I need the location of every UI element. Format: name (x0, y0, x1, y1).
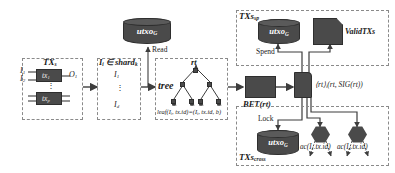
shard-item-first: I1 (114, 70, 119, 79)
edge-label-spend: Spend (256, 47, 275, 56)
valid-txs-label: ValidTXs (345, 27, 375, 36)
tree-node-root (193, 68, 198, 73)
utxo-store-global-top: utxoG (123, 18, 171, 44)
shard-vertical-dots: ⋮ (116, 83, 124, 92)
tree-leaf-1 (171, 99, 176, 104)
tree-node-mid-left (180, 82, 185, 87)
diagram-canvas: TXs I1 I2 tx1 O1 ⋮ txp Ii ∈ shardk I1 ⋮ … (0, 0, 395, 173)
tx-input-2-label: I2 (20, 74, 25, 83)
signed-root-label: ⟨rt⟩i(rt, SIG(rt)) (315, 80, 363, 89)
utxo-store-global-cross: utxoG (257, 130, 299, 155)
shard-item-last: Id (114, 100, 119, 109)
edge-label-read: Read (152, 45, 167, 54)
account-node-right-label: ac(Id.tx.id) (337, 143, 368, 151)
tree-leaf-3 (198, 99, 203, 104)
txs-cross-group-label: TXscross (239, 152, 266, 162)
tx-op-top-label: tx1 (42, 71, 50, 80)
bft-consensus-box (245, 76, 276, 98)
txs-spend-group-label: TXssp (239, 11, 259, 21)
signed-root-box (294, 72, 312, 98)
tree-root-label: rt (191, 57, 197, 67)
shard-header-label: Ii ∈ shardk (99, 57, 138, 67)
tree-leaf-4 (216, 99, 221, 104)
tx-vertical-dots: ⋮ (47, 81, 55, 90)
tx-output-label: O1 (69, 70, 77, 79)
tx-op-bottom-label: txp (42, 94, 50, 103)
tree-label: tree (158, 80, 174, 91)
utxo-store-global-spend: utxoG (258, 19, 300, 44)
tx-op-bottom-box: txp (36, 92, 62, 105)
tx-group-label: TXs (43, 57, 57, 67)
tree-leaf-formula: leaf(Ii, tx.id)=(Ii, tx.id, b) (157, 108, 221, 116)
edge-label-lock: Lock (258, 114, 273, 123)
valid-txs-document (313, 18, 343, 45)
account-node-left-label: ac(I1.tx.id) (300, 143, 331, 151)
tree-node-mid-right (207, 82, 212, 87)
tree-leaf-2 (189, 99, 194, 104)
